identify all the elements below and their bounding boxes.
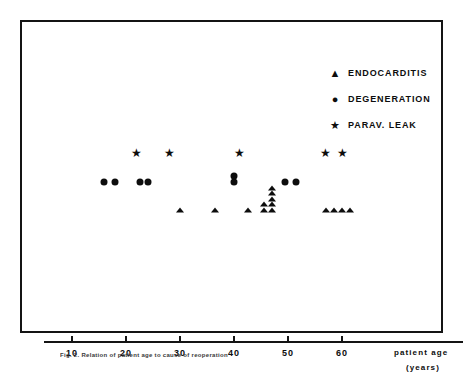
data-point-triangle <box>268 185 276 190</box>
data-point-triangle <box>268 191 276 196</box>
data-point-circle <box>112 179 119 186</box>
x-axis-units: (years) <box>406 363 440 372</box>
x-axis-title: patient age <box>394 348 448 357</box>
x-tick-30 <box>179 336 181 342</box>
x-tick-20 <box>125 336 127 342</box>
legend-label-degeneration: DEGENERATION <box>348 94 431 104</box>
circle-icon: ● <box>327 92 343 106</box>
data-point-triangle <box>176 208 184 213</box>
data-point-circle <box>136 179 143 186</box>
legend-item-degeneration: ● DEGENERATION <box>327 86 462 112</box>
x-tick-10 <box>71 336 73 342</box>
star-icon: ★ <box>327 118 343 132</box>
figure-caption: Fig. 2. Relation of patient age to cause… <box>60 352 390 358</box>
legend-item-endocarditis: ▲ ENDOCARDITIS <box>327 60 462 86</box>
data-point-triangle <box>260 208 268 213</box>
data-point-circle <box>293 179 300 186</box>
data-point-triangle <box>322 208 330 213</box>
data-point-triangle <box>338 208 346 213</box>
data-point-triangle <box>244 208 252 213</box>
data-point-triangle <box>260 202 268 207</box>
data-point-star: ★ <box>164 147 175 159</box>
data-point-circle <box>282 179 289 186</box>
legend-label-parav-leak: PARAV. LEAK <box>348 120 417 130</box>
x-axis-line <box>44 341 463 343</box>
x-tick-50 <box>287 336 289 342</box>
data-point-triangle <box>211 208 219 213</box>
data-point-star: ★ <box>320 147 331 159</box>
data-point-triangle <box>268 208 276 213</box>
data-point-triangle <box>268 196 276 201</box>
triangle-icon: ▲ <box>327 66 343 80</box>
data-point-star: ★ <box>337 147 348 159</box>
data-point-triangle <box>268 202 276 207</box>
plot-frame: ▲ ENDOCARDITIS ● DEGENERATION ★ PARAV. L… <box>20 20 443 333</box>
data-point-circle <box>144 179 151 186</box>
legend-item-parav-leak: ★ PARAV. LEAK <box>327 112 462 138</box>
data-point-triangle <box>330 208 338 213</box>
data-point-circle <box>101 179 108 186</box>
legend-label-endocarditis: ENDOCARDITIS <box>348 68 427 78</box>
x-tick-40 <box>233 336 235 342</box>
data-point-star: ★ <box>234 147 245 159</box>
data-point-circle <box>231 173 238 180</box>
data-point-triangle <box>346 208 354 213</box>
x-tick-60 <box>341 336 343 342</box>
legend: ▲ ENDOCARDITIS ● DEGENERATION ★ PARAV. L… <box>327 60 462 138</box>
data-point-star: ★ <box>131 147 142 159</box>
